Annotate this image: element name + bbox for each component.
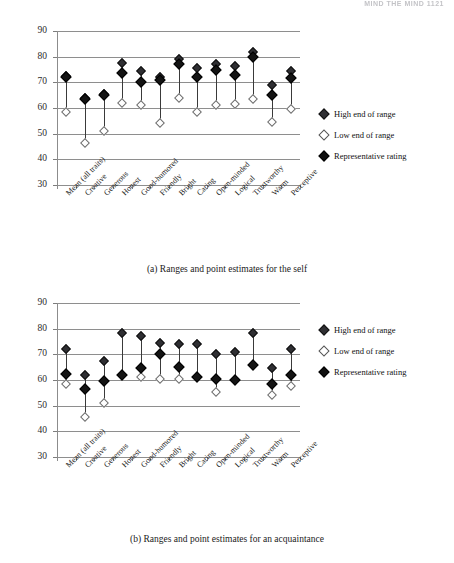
gridline: [57, 406, 300, 407]
legend-diamond-icon: [318, 150, 329, 161]
y-tick-mark: [53, 354, 57, 355]
legend-item[interactable]: Representative rating: [320, 151, 406, 161]
legend-item-label: Representative rating: [334, 367, 406, 377]
y-tick-mark: [53, 303, 57, 304]
legend-item-label: High end of range: [334, 109, 396, 119]
y-tick-mark: [53, 406, 57, 407]
chart-legend: High end of rangeLow end of rangeReprese…: [320, 109, 406, 172]
legend-item-label: High end of range: [334, 325, 396, 335]
chart-b: 30405060708090Mean (all traits)CreativeG…: [0, 292, 454, 563]
y-axis-tick-label: 50: [25, 400, 47, 410]
legend-diamond-icon: [318, 366, 329, 377]
y-tick-mark: [53, 159, 57, 160]
legend-item[interactable]: High end of range: [320, 109, 406, 119]
range-stem: [85, 375, 86, 417]
chart-a: 30405060708090Mean (all traits)CreativeG…: [0, 14, 454, 290]
y-axis-tick-label: 70: [25, 348, 47, 358]
legend-item-label: Low end of range: [334, 346, 394, 356]
legend-diamond-icon: [318, 345, 329, 356]
x-tick-mark: [57, 185, 58, 189]
figure-caption: (b) Ranges and point estimates for an ac…: [0, 534, 454, 544]
y-axis-tick-label: 60: [25, 374, 47, 384]
legend-diamond-icon: [318, 324, 329, 335]
figure-b: 30405060708090Mean (all traits)CreativeG…: [0, 292, 454, 563]
y-axis-tick-label: 60: [25, 102, 47, 112]
y-tick-mark: [53, 380, 57, 381]
y-tick-mark: [53, 329, 57, 330]
gridline: [57, 31, 300, 32]
figure-a: 30405060708090Mean (all traits)CreativeG…: [0, 14, 454, 290]
legend-item[interactable]: Low end of range: [320, 346, 406, 356]
gridline: [57, 134, 300, 135]
x-tick-mark: [57, 457, 58, 461]
gridline: [57, 329, 300, 330]
y-axis-tick-label: 80: [25, 323, 47, 333]
y-axis-tick-label: 80: [25, 51, 47, 61]
legend-item-label: Low end of range: [334, 130, 394, 140]
y-axis-tick-label: 70: [25, 76, 47, 86]
y-tick-mark: [53, 108, 57, 109]
chart-legend: High end of rangeLow end of rangeReprese…: [320, 325, 406, 388]
y-axis-tick-label: 40: [25, 153, 47, 163]
y-axis-tick-label: 30: [25, 179, 47, 189]
legend-diamond-icon: [318, 108, 329, 119]
legend-item[interactable]: Representative rating: [320, 367, 406, 377]
y-tick-mark: [53, 134, 57, 135]
y-axis-tick-label: 90: [25, 25, 47, 35]
y-axis-tick-label: 40: [25, 425, 47, 435]
y-tick-mark: [53, 431, 57, 432]
y-axis-tick-label: 30: [25, 451, 47, 461]
y-tick-mark: [53, 57, 57, 58]
legend-item[interactable]: High end of range: [320, 325, 406, 335]
legend-item-label: Representative rating: [334, 151, 406, 161]
range-stem: [122, 333, 123, 375]
legend-item[interactable]: Low end of range: [320, 130, 406, 140]
running-head: MIND THE MIND 1121: [0, 0, 454, 12]
legend-diamond-icon: [318, 129, 329, 140]
gridline: [57, 108, 300, 109]
figure-caption: (a) Ranges and point estimates for the s…: [0, 264, 454, 274]
y-tick-mark: [53, 31, 57, 32]
y-axis-tick-label: 50: [25, 128, 47, 138]
y-tick-mark: [53, 82, 57, 83]
y-axis-tick-label: 90: [25, 297, 47, 307]
gridline: [57, 303, 300, 304]
